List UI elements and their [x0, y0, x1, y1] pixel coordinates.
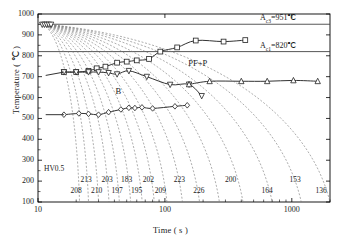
marker-square — [221, 39, 226, 44]
marker-diamond — [86, 111, 91, 117]
hardness-value: 203 — [97, 175, 117, 184]
x-tick-label: 100 — [150, 205, 180, 214]
curve-bainite-finish — [64, 105, 187, 114]
phase-label-0: PF+P — [188, 58, 207, 68]
hardness-value: 153 — [285, 175, 305, 184]
hardness-value: 195 — [127, 186, 147, 195]
hardness-value: 202 — [138, 175, 158, 184]
y-tick-label: 200 — [4, 176, 34, 185]
hardness-value: 223 — [169, 175, 189, 184]
hardness-value: 200 — [221, 175, 241, 184]
hardness-value: 164 — [257, 186, 277, 195]
marker-square — [193, 38, 198, 43]
marker-square — [103, 64, 108, 69]
marker-diamond — [132, 105, 137, 111]
cooling-curve-0 — [43, 24, 79, 202]
hardness-value: 210 — [87, 186, 107, 195]
y-tick-label: 500 — [4, 113, 34, 122]
marker-down-triangle — [199, 93, 204, 98]
hardness-value: 213 — [76, 175, 96, 184]
y-tick-label: 1000 — [4, 9, 34, 18]
hardness-value: 226 — [189, 186, 209, 195]
marker-diamond — [96, 112, 101, 118]
marker-square — [175, 45, 180, 50]
marker-square — [134, 58, 139, 63]
y-tick-label: 600 — [4, 93, 34, 102]
reference-label-Ac1: Ac1=820℃ — [260, 41, 297, 52]
marker-diamond — [106, 109, 111, 115]
y-tick-label: 700 — [4, 72, 34, 81]
chart-canvas — [0, 0, 341, 239]
marker-square — [158, 49, 163, 54]
curve-bainite-start — [64, 71, 202, 96]
hardness-value: 197 — [107, 186, 127, 195]
x-axis-label: Time ( s ) — [0, 225, 341, 235]
hardness-title: HV0.5 — [44, 164, 64, 173]
marker-diamond — [185, 102, 190, 108]
hardness-value: 136 — [311, 186, 331, 195]
marker-diamond — [126, 105, 131, 111]
marker-square — [243, 38, 248, 43]
y-tick-label: 900 — [4, 30, 34, 39]
phase-label-1: B — [115, 86, 121, 96]
marker-square — [124, 59, 129, 64]
y-tick-label: 300 — [4, 155, 34, 164]
marker-diamond — [173, 104, 178, 110]
x-tick-label: 1000 — [277, 205, 307, 214]
hardness-value: 183 — [117, 175, 137, 184]
hardness-value: 209 — [150, 186, 170, 195]
hardness-value: 208 — [66, 186, 86, 195]
marker-square — [147, 57, 152, 62]
y-tick-label: 800 — [4, 51, 34, 60]
y-tick-label: 400 — [4, 134, 34, 143]
marker-diamond — [140, 105, 145, 111]
reference-label-Ac3: Ac3=951℃ — [260, 13, 297, 24]
cct-diagram: Temperature ( ℃ ) Time ( s ) 10020030040… — [0, 0, 341, 239]
x-tick-label: 10 — [23, 205, 53, 214]
marker-square — [115, 60, 120, 65]
